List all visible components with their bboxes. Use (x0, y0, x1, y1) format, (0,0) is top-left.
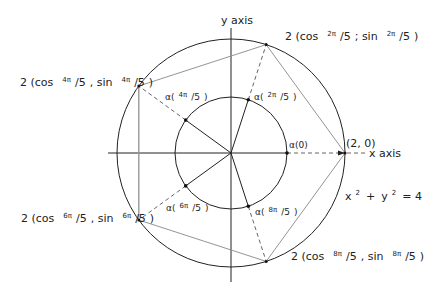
radius-a1 (231, 100, 248, 153)
circle-equation: x 2 + y 2 = 4 (345, 181, 422, 203)
label-p0: (2, 0) (346, 137, 376, 150)
label-p4: 2 (cos 8π /5 , sin 8π /5 ) (291, 242, 424, 263)
point-p4 (265, 260, 268, 263)
point-a3 (184, 184, 188, 188)
label-a2: α( 4π /5 ) (165, 83, 207, 103)
label-a4: α( 8π /5 ) (255, 198, 297, 218)
point-a2 (184, 118, 188, 122)
point-a1 (247, 98, 251, 102)
point-p0 (344, 152, 347, 155)
label-p2: 2 (cos 4π /5 , sin 4π /5 ) (20, 68, 153, 89)
radius-a4 (231, 153, 248, 206)
label-p3: 2 (cos 6π /5 , sin 6π /5 ) (21, 204, 154, 225)
roots-diagram: y axis x axis (2, 0) 2 (cos 2π /5 ; sin … (0, 0, 426, 293)
label-a0: α(0) (289, 140, 308, 150)
point-a4 (247, 205, 251, 209)
label-p1: 2 (cos 2π /5 ; sin 2π /5 ) (285, 22, 418, 43)
point-p1 (265, 43, 268, 46)
point-a0 (285, 151, 289, 155)
radius-a2 (186, 120, 231, 153)
label-a1: α( 2π /5 ) (254, 83, 296, 103)
y-axis-label: y axis (221, 14, 253, 27)
radius-a3 (186, 153, 231, 186)
label-a3: α( 6π /5 ) (166, 194, 208, 214)
